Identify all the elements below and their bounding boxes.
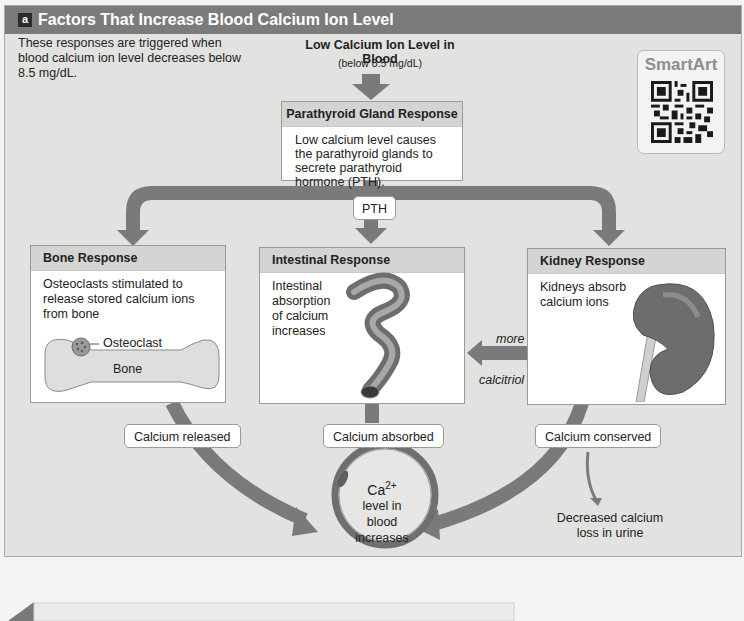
calcium-symbol-line: Ca2+ — [342, 478, 422, 498]
calcium-released-tag: Calcium released — [124, 424, 241, 448]
kidney-illustration — [628, 277, 718, 402]
calcium-conserved-tag: Calcium conserved — [535, 424, 661, 448]
calcium-symbol: Ca — [367, 482, 385, 498]
intro-text: These responses are triggered when blood… — [18, 36, 248, 81]
parathyroid-body: Low calcium level causes the parathyroid… — [282, 127, 462, 195]
result-line-3: increases — [342, 530, 422, 546]
intestinal-response-body: Intestinal absorption of calcium increas… — [260, 273, 356, 345]
calcitriol-top-label: more — [496, 332, 524, 346]
smartart-qr-button[interactable]: SmartArt — [637, 50, 725, 154]
calcium-absorbed-tag: Calcium absorbed — [323, 424, 444, 448]
smartart-label: SmartArt — [638, 55, 724, 75]
intestinal-response-box: Intestinal Response Intestinal absorptio… — [259, 247, 465, 404]
qr-code-icon — [651, 81, 713, 143]
osteoclast-label: Osteoclast — [103, 336, 162, 350]
result-line-1: level in — [342, 498, 422, 514]
bone-response-body: Osteoclasts stimulated to release stored… — [31, 271, 225, 328]
intestinal-response-title: Intestinal Response — [260, 248, 464, 273]
blood-calcium-result: Ca2+ level in blood increases — [342, 478, 422, 546]
result-line-2: blood — [342, 514, 422, 530]
parathyroid-title: Parathyroid Gland Response — [282, 102, 462, 127]
kidney-response-title: Kidney Response — [528, 249, 725, 274]
trigger-subtitle: (below 8.5 mg/dL) — [290, 57, 470, 69]
kidney-response-box: Kidney Response Kidneys absorb calcium i… — [527, 248, 726, 405]
parathyroid-response-box: Parathyroid Gland Response Low calcium l… — [281, 101, 463, 181]
calcitriol-bottom-label: calcitriol — [479, 373, 524, 387]
bone-response-title: Bone Response — [31, 246, 225, 271]
intestine-illustration — [344, 272, 444, 402]
urine-note: Decreased calcium loss in urine — [545, 511, 675, 541]
bone-response-box: Bone Response Osteoclasts stimulated to … — [30, 245, 226, 403]
calcium-charge: 2+ — [385, 480, 396, 491]
pth-tag: PTH — [353, 196, 396, 220]
bone-label: Bone — [113, 362, 142, 376]
